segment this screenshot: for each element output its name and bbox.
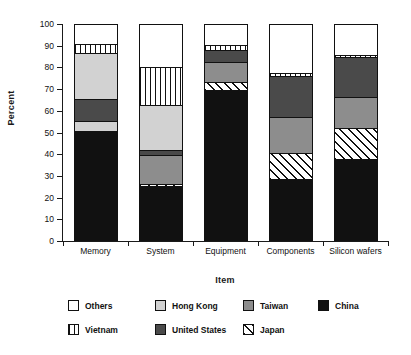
legend-item-vietnam[interactable]: Vietnam <box>68 324 118 335</box>
bar-segment-taiwan[interactable] <box>269 117 313 153</box>
bar-segment-vietnam[interactable] <box>74 44 118 54</box>
y-axis-tick-label: 20 <box>45 194 54 203</box>
bar-segment-taiwan[interactable] <box>204 62 248 82</box>
bar-memory[interactable] <box>74 24 118 241</box>
y-axis-tick <box>57 176 63 177</box>
legend-swatch-icon <box>155 324 166 335</box>
legend-item-hong-kong[interactable]: Hong Kong <box>155 300 218 311</box>
bar-segment-china[interactable] <box>204 90 248 241</box>
x-axis-category-label: Components <box>266 246 314 256</box>
legend-swatch-icon <box>243 300 254 311</box>
bar-segment-china[interactable] <box>74 131 118 241</box>
legend-swatch-icon <box>318 300 329 311</box>
bar-segment-others[interactable] <box>74 24 118 44</box>
legend-swatch-icon <box>68 324 79 335</box>
bar-silicon-wafers[interactable] <box>334 24 378 241</box>
plot-area: 0102030405060708090100 <box>63 24 388 241</box>
bar-segment-hong-kong[interactable] <box>139 105 183 149</box>
legend-item-others[interactable]: Others <box>68 300 112 311</box>
y-axis-tick-label: 100 <box>40 20 54 29</box>
y-axis-tick <box>57 46 63 47</box>
y-axis-tick-label: 0 <box>49 237 54 246</box>
legend-label: Hong Kong <box>172 301 218 311</box>
y-axis-tick <box>57 24 63 25</box>
y-axis-tick-label: 70 <box>45 85 54 94</box>
bar-segment-taiwan[interactable] <box>334 97 378 128</box>
y-axis-title: Percent <box>6 90 16 125</box>
bar-segment-japan[interactable] <box>334 128 378 158</box>
y-axis-tick-label: 50 <box>45 129 54 138</box>
x-axis-category-label: Equipment <box>205 246 246 256</box>
bar-segment-vietnam[interactable] <box>204 45 248 50</box>
bar-segment-japan[interactable] <box>139 184 183 186</box>
y-axis-tick-label: 90 <box>45 42 54 51</box>
legend-item-china[interactable]: China <box>318 300 359 311</box>
y-axis-tick-label: 60 <box>45 107 54 116</box>
y-axis-tick <box>57 67 63 68</box>
bar-segment-others[interactable] <box>139 24 183 67</box>
legend-label: Taiwan <box>260 301 288 311</box>
x-axis-tick <box>63 241 64 246</box>
x-axis-tick <box>128 241 129 246</box>
legend-swatch-icon <box>243 324 254 335</box>
y-axis-tick-label: 40 <box>45 150 54 159</box>
bar-segment-china[interactable] <box>334 159 378 241</box>
x-axis-category-label: Memory <box>80 246 111 256</box>
y-axis-tick <box>57 89 63 90</box>
bar-segment-taiwan[interactable] <box>139 155 183 183</box>
bar-segment-united-states[interactable] <box>139 150 183 155</box>
legend-label: United States <box>172 325 226 335</box>
bar-segment-vietnam[interactable] <box>139 67 183 105</box>
legend-label: Japan <box>260 325 285 335</box>
bar-segment-united-states[interactable] <box>334 57 378 97</box>
bar-segment-hong-kong[interactable] <box>74 121 118 132</box>
x-axis-tick <box>258 241 259 246</box>
bar-segment-united-states[interactable] <box>269 76 313 117</box>
legend-label: Others <box>85 301 112 311</box>
x-axis-title: Item <box>215 275 235 285</box>
stacked-bar-chart: Percent Item 0102030405060708090100 Othe… <box>0 0 411 355</box>
bar-segment-vietnam[interactable] <box>269 73 313 76</box>
x-axis-category-label: System <box>146 246 174 256</box>
y-axis-tick-label: 30 <box>45 172 54 181</box>
legend-swatch-icon <box>68 300 79 311</box>
bar-equipment[interactable] <box>204 24 248 241</box>
chart-legend: OthersHong KongTaiwanChinaVietnamUnited … <box>0 296 411 348</box>
bar-segment-united-states[interactable] <box>204 50 248 62</box>
legend-item-united-states[interactable]: United States <box>155 324 226 335</box>
bar-segment-china[interactable] <box>269 179 313 241</box>
legend-label: Vietnam <box>85 325 118 335</box>
bar-segment-others[interactable] <box>204 24 248 45</box>
y-axis-tick <box>57 154 63 155</box>
bar-segment-vietnam[interactable] <box>334 55 378 56</box>
y-axis-tick <box>57 219 63 220</box>
y-axis-tick <box>57 198 63 199</box>
legend-item-japan[interactable]: Japan <box>243 324 285 335</box>
bar-segment-united-states[interactable] <box>74 99 118 121</box>
bar-segment-china[interactable] <box>139 186 183 241</box>
x-axis-tick <box>323 241 324 246</box>
x-axis-tick <box>193 241 194 246</box>
bar-segment-japan[interactable] <box>269 153 313 179</box>
legend-label: China <box>335 301 359 311</box>
x-axis-line <box>62 241 388 242</box>
bar-segment-others[interactable] <box>334 24 378 55</box>
bar-system[interactable] <box>139 24 183 241</box>
y-axis-tick <box>57 133 63 134</box>
x-axis-category-label: Silicon wafers <box>329 246 381 256</box>
bar-segment-others[interactable] <box>269 24 313 73</box>
legend-item-taiwan[interactable]: Taiwan <box>243 300 288 311</box>
bar-segment-japan[interactable] <box>204 82 248 91</box>
bar-segment-hong-kong[interactable] <box>74 53 118 99</box>
x-axis-tick <box>388 241 389 246</box>
y-axis-tick <box>57 111 63 112</box>
y-axis-tick-label: 80 <box>45 63 54 72</box>
bar-components[interactable] <box>269 24 313 241</box>
y-axis-tick-label: 10 <box>45 215 54 224</box>
legend-swatch-icon <box>155 300 166 311</box>
